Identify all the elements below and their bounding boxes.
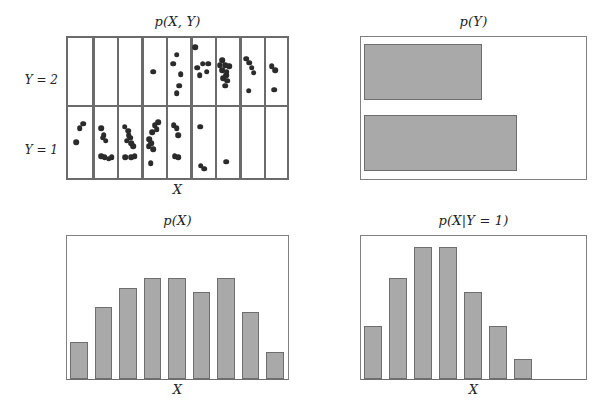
conditional-x-title: p(X|Y = 1) [360, 213, 587, 228]
scatter-dot [170, 61, 176, 67]
scatter-dot [223, 73, 229, 79]
marginal-x-title-wrap: p(X) [66, 213, 289, 233]
scatter-dot [197, 73, 203, 79]
histogram-bar [439, 247, 457, 379]
scatter-dot [175, 155, 181, 161]
scatter-dot [222, 83, 228, 89]
scatter-dot [193, 44, 199, 50]
scatter-dot [73, 139, 79, 145]
scatter-dot [178, 71, 184, 77]
conditional-x-title-wrap: p(X|Y = 1) [360, 213, 587, 233]
scatter-dot [206, 61, 212, 67]
histogram-bar [489, 326, 507, 379]
histogram-bar [414, 247, 432, 379]
joint-panel-title: p(X, Y) [66, 14, 289, 29]
marginal-y-bar [364, 44, 482, 100]
histogram-bar [95, 307, 113, 379]
joint-distribution-plot [66, 36, 289, 180]
scatter-dot [246, 88, 252, 94]
scatter-dot [176, 83, 182, 89]
joint-xaxis-label: X [66, 182, 289, 197]
histogram-bar [464, 292, 482, 379]
scatter-dot [176, 132, 182, 138]
conditional-x-bars [361, 236, 586, 379]
marginal-y-bar [364, 115, 517, 171]
scatter-dot [204, 69, 210, 75]
scatter-dot [98, 125, 104, 131]
marginal-x-plot [66, 235, 289, 380]
scatter-dot [200, 61, 206, 67]
scatter-dot [130, 143, 136, 149]
scatter-dot [227, 64, 233, 70]
marginal-x-title: p(X) [66, 213, 289, 228]
marginal-x-bars [67, 236, 288, 379]
joint-panel-title-wrap: p(X, Y) [66, 14, 289, 34]
prml-joint-marginal-conditional-figure: p(X, Y) Y = 2 Y = 1 X p(Y) p(X) X [0, 0, 601, 405]
scatter-dot [217, 62, 223, 68]
marginal-x-xaxis-label: X [66, 382, 289, 397]
histogram-bar [70, 342, 88, 379]
scatter-dot [126, 132, 132, 138]
scatter-dot [271, 87, 277, 93]
histogram-bar [514, 359, 532, 379]
row-label-y2: Y = 2 [8, 73, 58, 87]
row-label-y1: Y = 1 [8, 143, 58, 157]
histogram-bar [119, 288, 137, 379]
marginal-y-bars [361, 37, 586, 179]
scatter-dot [273, 67, 279, 73]
conditional-x-baseline [361, 379, 586, 381]
scatter-dot [174, 91, 180, 97]
histogram-bar [364, 326, 382, 379]
scatter-dot [197, 124, 203, 130]
scatter-dot [150, 69, 156, 75]
scatter-dot [155, 120, 161, 126]
marginal-x-baseline [67, 379, 288, 381]
marginal-y-title: p(Y) [360, 14, 587, 29]
scatter-dot [174, 125, 180, 131]
histogram-bar [389, 278, 407, 379]
histogram-bar [217, 278, 235, 379]
scatter-dot [154, 127, 160, 133]
scatter-dot [80, 121, 86, 127]
scatter-dot [109, 155, 115, 161]
scatter-dot [122, 155, 128, 161]
histogram-bar [168, 278, 186, 379]
scatter-dot [201, 166, 207, 172]
scatter-dot [132, 153, 138, 159]
scatter-dot [223, 159, 229, 165]
joint-scatter-dots [68, 38, 287, 178]
scatter-dot [150, 146, 156, 152]
scatter-dot [174, 52, 180, 58]
histogram-bar [193, 292, 211, 379]
marginal-y-title-wrap: p(Y) [360, 14, 587, 34]
scatter-dot [100, 135, 106, 141]
scatter-dot [195, 65, 201, 71]
histogram-bar [266, 352, 284, 379]
conditional-x-plot [360, 235, 587, 380]
marginal-y-plot [360, 36, 587, 180]
histogram-bar [242, 312, 260, 379]
scatter-dot [148, 160, 154, 166]
scatter-dot [251, 70, 257, 76]
histogram-bar [144, 278, 162, 379]
conditional-x-xaxis-label: X [360, 382, 587, 397]
